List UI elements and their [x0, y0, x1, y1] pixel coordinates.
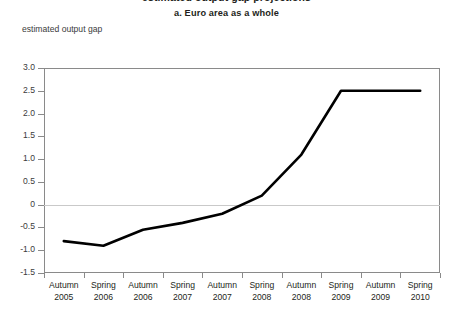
y-axis-tick-mark [38, 227, 44, 228]
x-axis-tick-mark [123, 273, 124, 278]
y-axis-tick-mark [38, 114, 44, 115]
x-axis-tick-label-line: 2010 [396, 292, 444, 304]
x-axis-tick-mark [163, 273, 164, 278]
chart-main-title: estimated output gap projections [0, 0, 453, 3]
y-axis-tick-mark [38, 91, 44, 92]
chart-root: estimated output gap projections a. Euro… [0, 0, 453, 315]
y-axis-tick-mark [38, 68, 44, 69]
y-axis-tick-mark [38, 205, 44, 206]
x-axis-tick-mark [321, 273, 322, 278]
x-axis-tick-label-line: Spring [396, 280, 444, 292]
y-axis-tick-mark [38, 250, 44, 251]
x-axis-tick-mark [440, 273, 441, 278]
y-axis-tick-label: -1.5 [20, 267, 35, 277]
y-axis-tick-label: 2.5 [23, 85, 35, 95]
x-axis-tick-mark [84, 273, 85, 278]
y-axis-tick-mark [38, 159, 44, 160]
y-axis-tick-label: 1.0 [23, 153, 35, 163]
plot-area [44, 68, 440, 273]
x-axis-tick-mark [242, 273, 243, 278]
x-axis-tick-mark [400, 273, 401, 278]
x-axis-tick-mark [202, 273, 203, 278]
chart-sub-title: a. Euro area as a whole [0, 8, 453, 18]
y-axis-tick-label: 3.0 [23, 62, 35, 72]
y-axis-tick-label: 0.5 [23, 176, 35, 186]
y-axis-tick-label: 2.0 [23, 108, 35, 118]
y-axis-tick-label: 1.5 [23, 130, 35, 140]
x-axis-tick-mark [361, 273, 362, 278]
y-axis-tick-mark [38, 182, 44, 183]
x-axis-tick-mark [44, 273, 45, 278]
x-axis-tick-label: Spring2010 [396, 280, 444, 303]
y-axis-tick-mark [38, 136, 44, 137]
zero-reference-line [44, 205, 440, 206]
y-axis-caption: estimated output gap [22, 24, 102, 34]
y-axis-tick-label: -0.5 [20, 221, 35, 231]
y-axis-tick-label: -1.0 [20, 244, 35, 254]
y-axis-tick-label: 0 [30, 199, 35, 209]
x-axis-tick-mark [282, 273, 283, 278]
